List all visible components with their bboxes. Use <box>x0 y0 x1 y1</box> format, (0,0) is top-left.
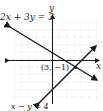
grid <box>14 22 98 101</box>
y-axis-label: y <box>49 4 54 13</box>
intersection-label: (3, −1) <box>41 64 69 72</box>
x-axis-label: x <box>96 62 101 71</box>
equation-2-label: x − y = 4 <box>11 103 49 111</box>
intersection-point <box>74 66 77 69</box>
equation-1-label: 2x + 3y = 3 <box>0 13 54 22</box>
